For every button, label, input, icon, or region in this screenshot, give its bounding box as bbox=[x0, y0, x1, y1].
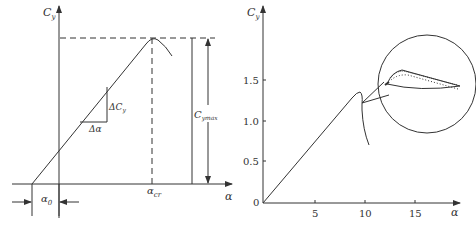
y-tick-label-10: 1.0 bbox=[243, 116, 259, 127]
alpha-cr-label: αcr bbox=[147, 185, 162, 199]
y-tick-label-15: 1.5 bbox=[243, 75, 259, 86]
lift-curve bbox=[263, 92, 369, 203]
left-y-label: Cy bbox=[43, 6, 56, 21]
inset-circle bbox=[378, 35, 476, 133]
cymax-label: Cymax bbox=[194, 109, 218, 122]
x-tick-label-5: 5 bbox=[312, 208, 318, 219]
delta-alpha-label: Δα bbox=[88, 124, 102, 134]
right-x-label: α bbox=[451, 206, 459, 219]
stall-curve bbox=[146, 39, 172, 56]
left-labels: Cy α α0 αcr ΔCy Δα Cymax bbox=[41, 6, 233, 207]
slope-triangle bbox=[80, 87, 107, 122]
lift-line bbox=[32, 44, 146, 184]
right-diagram bbox=[263, 6, 476, 203]
x-tick-label-10: 10 bbox=[359, 208, 372, 219]
diagram-canvas: Cy α α0 αcr ΔCy Δα Cymax Cy α 5 10 15 bbox=[0, 0, 476, 230]
y-tick-label-05: 0.5 bbox=[243, 156, 259, 167]
right-labels: Cy α 5 10 15 0 0.5 1.0 1.5 bbox=[243, 6, 459, 219]
delta-cy-label: ΔCy bbox=[108, 102, 126, 114]
left-x-label: α bbox=[225, 190, 233, 203]
x-tick-label-15: 15 bbox=[409, 208, 422, 219]
alpha0-label: α0 bbox=[41, 193, 53, 207]
y-tick-label-0: 0 bbox=[253, 197, 259, 208]
airfoil-inset bbox=[385, 70, 460, 89]
right-y-label: Cy bbox=[247, 6, 260, 21]
